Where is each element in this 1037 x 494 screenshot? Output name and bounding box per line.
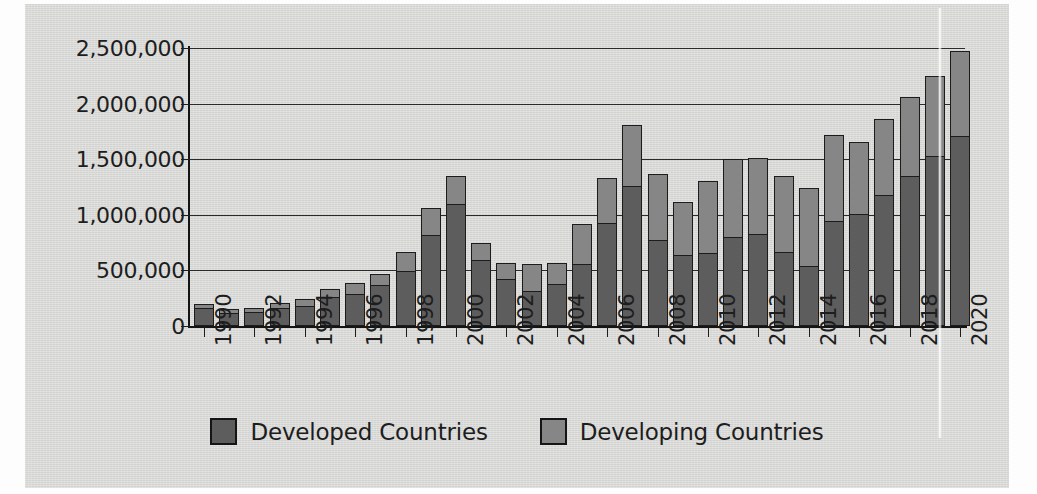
legend-swatch-icon <box>540 418 567 445</box>
x-tick-label-2006: 2006 <box>615 294 639 346</box>
x-tick-label-2002: 2002 <box>514 294 538 346</box>
y-tick-mark <box>181 215 190 216</box>
chart-legend: Developed CountriesDeveloping Countries <box>25 418 1009 445</box>
x-tick-label-2008: 2008 <box>666 294 690 346</box>
legend-item-developed: Developed Countries <box>210 418 487 445</box>
x-tick-label-1996: 1996 <box>363 294 387 346</box>
x-tick-label-2012: 2012 <box>766 294 790 346</box>
x-tick-label-2004: 2004 <box>565 294 589 346</box>
x-tick-label-1998: 1998 <box>414 294 438 346</box>
y-tick-mark <box>181 48 190 49</box>
chart-paper-panel: 0500,0001,000,0001,500,0002,000,0002,500… <box>25 4 1009 488</box>
x-tick-label-2020: 2020 <box>968 294 992 346</box>
y-tick-mark <box>181 104 190 105</box>
x-tick-label-2010: 2010 <box>716 294 740 346</box>
legend-swatch-icon <box>210 418 237 445</box>
y-tick-label: 2,000,000 <box>76 91 185 116</box>
x-axis-labels: 1990199219941996199820002002200420062008… <box>190 48 980 348</box>
legend-label: Developed Countries <box>250 419 487 445</box>
y-axis-labels: 0500,0001,000,0001,500,0002,000,0002,500… <box>25 48 185 328</box>
x-tick-label-2016: 2016 <box>867 294 891 346</box>
x-tick-label-1990: 1990 <box>212 294 236 346</box>
x-tick-label-2014: 2014 <box>817 294 841 346</box>
x-tick-label-1992: 1992 <box>262 294 286 346</box>
legend-item-developing: Developing Countries <box>540 418 824 445</box>
x-tick-label-2018: 2018 <box>918 294 942 346</box>
x-tick-label-1994: 1994 <box>313 294 337 346</box>
y-tick-mark <box>181 159 190 160</box>
y-tick-label: 1,500,000 <box>76 147 185 172</box>
y-tick-label: 2,500,000 <box>76 36 185 61</box>
y-tick-mark <box>181 326 190 327</box>
y-tick-label: 500,000 <box>96 258 185 283</box>
legend-label: Developing Countries <box>580 419 824 445</box>
scanned-page: 0500,0001,000,0001,500,0002,000,0002,500… <box>0 0 1037 494</box>
x-tick-label-2000: 2000 <box>464 294 488 346</box>
y-tick-label: 1,000,000 <box>76 202 185 227</box>
y-tick-mark <box>181 270 190 271</box>
